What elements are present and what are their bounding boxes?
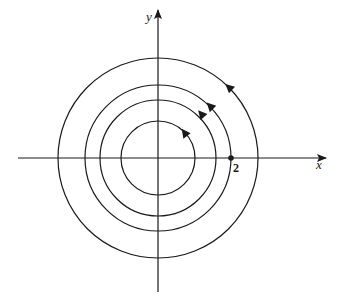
arrow-icon xyxy=(204,99,217,112)
direction-arrows xyxy=(178,81,235,139)
x-axis-label: x xyxy=(315,157,322,172)
y-axis-label: y xyxy=(144,9,152,24)
x-tick-label: 2 xyxy=(233,161,239,175)
arrow-icon xyxy=(195,107,208,120)
marked-point xyxy=(228,155,234,161)
phase-portrait-diagram: 2 x y xyxy=(0,0,341,304)
